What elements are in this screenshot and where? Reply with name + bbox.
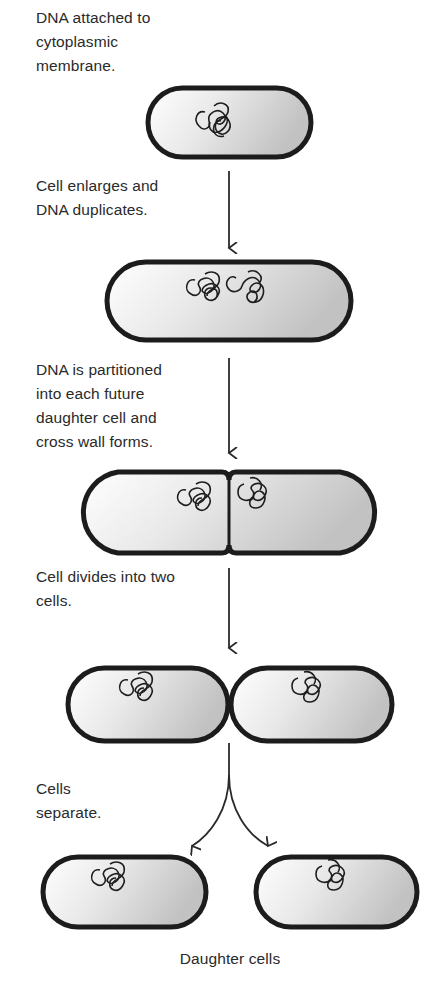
- step-2-caption: Cell enlarges and DNA duplicates.: [36, 174, 158, 222]
- branch-arrows-icon: [192, 743, 268, 846]
- daughter-cells: [43, 857, 417, 927]
- step-5-caption: Cells separate.: [36, 777, 102, 825]
- binary-fission-diagram: [0, 0, 442, 985]
- cells-step-4: [68, 668, 392, 741]
- cell-right: [231, 668, 392, 741]
- cell-left: [68, 668, 228, 741]
- step-4-caption: Cell divides into two cells.: [36, 565, 175, 613]
- cell-step-3-dividing: [83, 472, 374, 553]
- daughter-cell-right: [256, 857, 417, 927]
- cell-step-2: [107, 262, 351, 340]
- step-3-caption: DNA is partitioned into each future daug…: [36, 358, 162, 454]
- cell-step-1: [148, 88, 311, 157]
- step-1-caption: DNA attached to cytoplasmic membrane.: [36, 6, 150, 78]
- daughter-cells-label: Daughter cells: [0, 947, 442, 971]
